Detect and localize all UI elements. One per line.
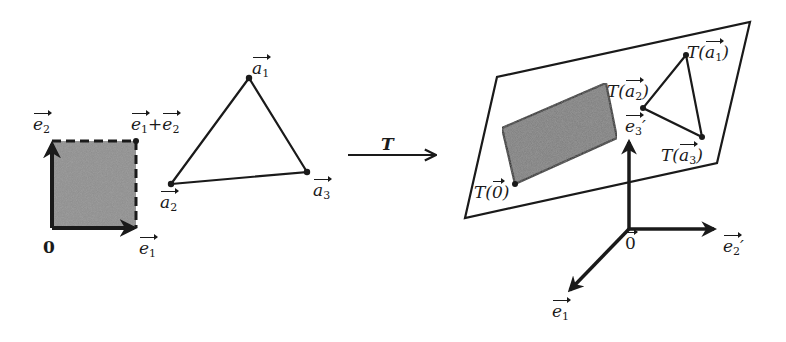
label-e1-plus-e2: e1+e2 xyxy=(131,116,179,135)
label-T: T xyxy=(381,136,394,153)
label-e2: e2 xyxy=(33,116,50,135)
label-origin-3d: 0 xyxy=(625,235,636,252)
unit-square xyxy=(52,138,139,228)
label-a3: a3 xyxy=(313,182,330,201)
triangle xyxy=(168,75,310,187)
label-e2-prime: e2′ xyxy=(723,238,744,257)
label-T-0: T(0) xyxy=(474,184,509,201)
label-T-a1: T(a1) xyxy=(687,44,729,63)
label-T-a3: T(a3) xyxy=(661,147,703,166)
point-T0 xyxy=(512,181,518,187)
label-origin: 0 xyxy=(43,239,55,256)
label-e3-prime: e3′ xyxy=(625,118,646,137)
point-a2 xyxy=(168,181,174,187)
point-Ta2 xyxy=(640,105,646,111)
image-triangle xyxy=(640,52,705,140)
point-a3 xyxy=(304,169,310,175)
label-a2: a2 xyxy=(160,194,177,213)
label-a1: a1 xyxy=(252,60,269,79)
label-e1: e1 xyxy=(139,240,156,259)
shaded-square xyxy=(52,141,136,228)
linear-transformation-diagram: e2 e1+e2 0 e1 a1 a2 a3 T T(a1) T(a2) T(a… xyxy=(0,0,786,342)
diagram-canvas xyxy=(0,0,786,342)
corner-point xyxy=(133,138,139,144)
point-Ta3 xyxy=(699,134,705,140)
e1-prime-arrow xyxy=(570,229,629,290)
label-T-a2: T(a2) xyxy=(607,83,649,102)
image-parallelogram xyxy=(502,83,617,184)
label-e1-prime: e1 xyxy=(552,303,569,322)
